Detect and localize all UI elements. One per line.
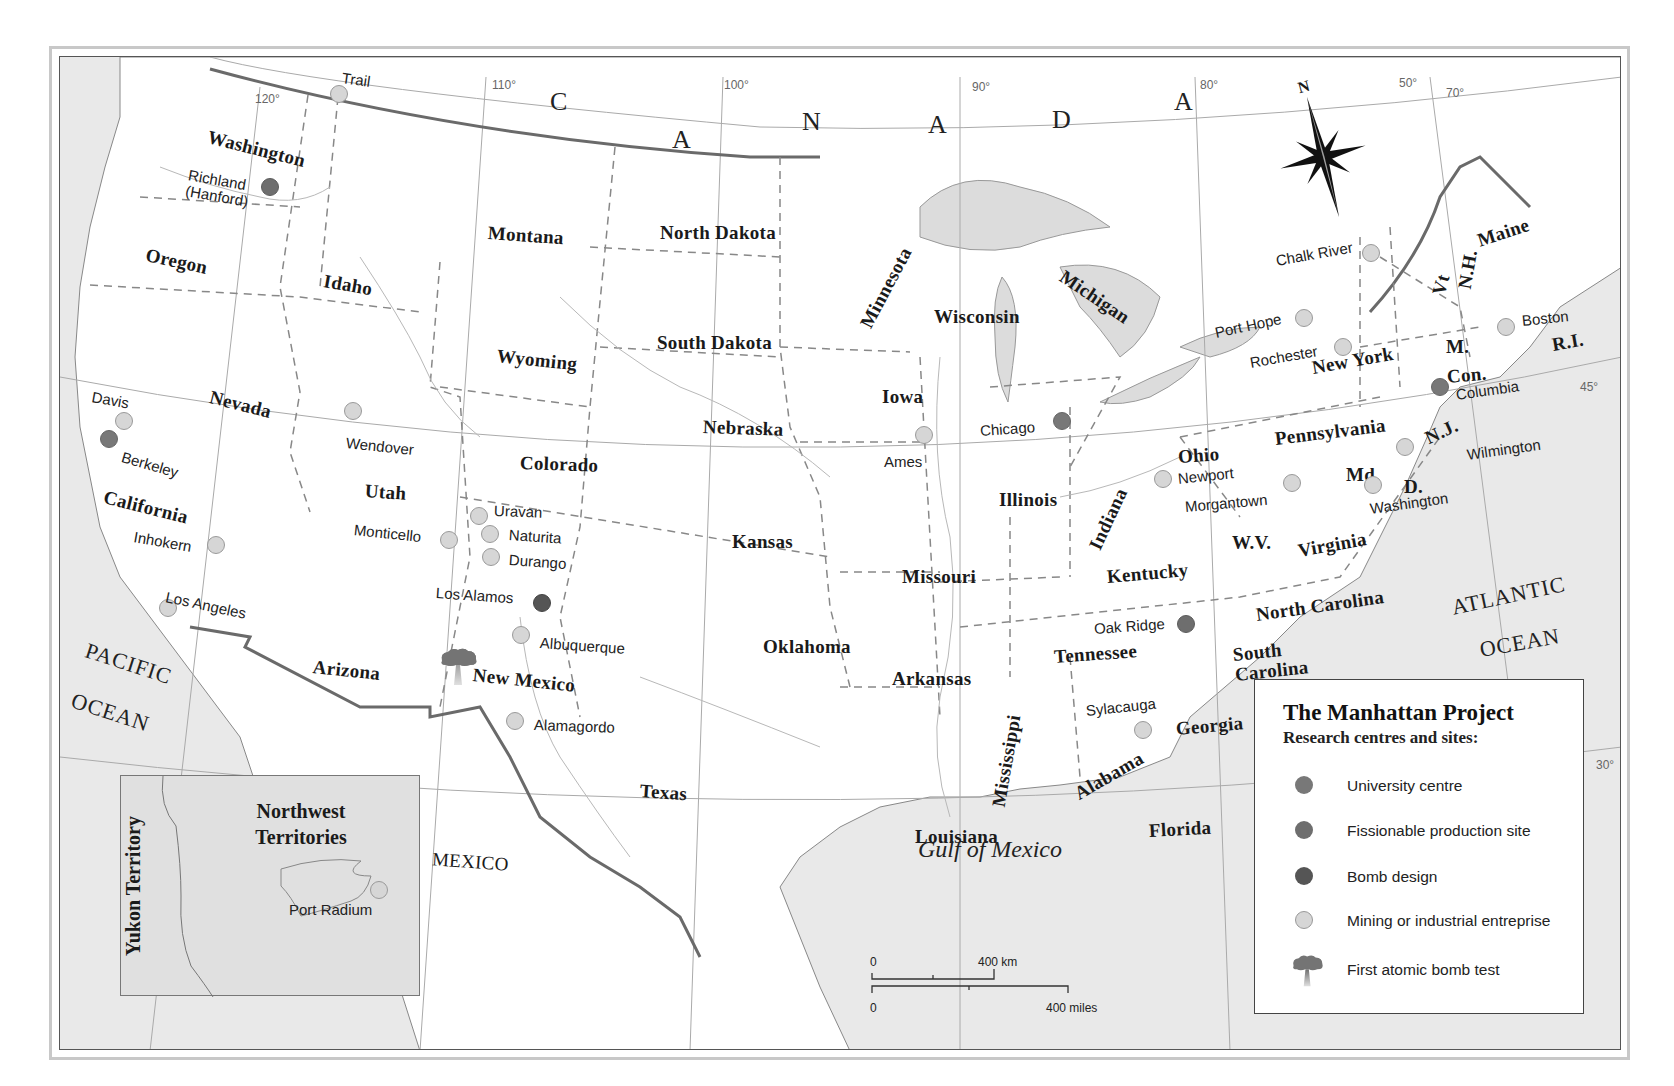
site-marker-uravan[interactable] bbox=[470, 507, 488, 525]
canada-letter: A bbox=[928, 112, 947, 138]
site-marker-chalk-river[interactable] bbox=[1362, 244, 1380, 262]
state-label-texas: Texas bbox=[639, 781, 687, 803]
state-label-arkansas: Arkansas bbox=[892, 669, 971, 688]
site-marker-ames[interactable] bbox=[915, 426, 933, 444]
scale-km-zero: 0 bbox=[870, 955, 877, 969]
scale-mi-zero: 0 bbox=[870, 1001, 877, 1015]
state-label-south-carolina: South Carolina bbox=[1232, 637, 1310, 684]
site-marker-rochester[interactable] bbox=[1334, 338, 1352, 356]
site-marker-columbia[interactable] bbox=[1431, 378, 1449, 396]
site-marker-port-hope[interactable] bbox=[1295, 309, 1313, 327]
state-label-illinois: Illinois bbox=[999, 490, 1057, 509]
legend-label: Mining or industrial entreprise bbox=[1347, 912, 1550, 930]
legend-item-university: University centre bbox=[1255, 770, 1583, 800]
legend-item-bomb-test: First atomic bomb test bbox=[1255, 954, 1583, 984]
legend-title: The Manhattan Project bbox=[1283, 700, 1583, 726]
site-marker-durango[interactable] bbox=[482, 548, 500, 566]
inset-northwest-territories: Northwest Territories Yukon Territory Po… bbox=[120, 775, 420, 996]
atomic-bomb-test-icon[interactable] bbox=[438, 647, 480, 687]
site-marker-washington[interactable] bbox=[1364, 476, 1382, 494]
site-marker-oak-ridge[interactable] bbox=[1177, 615, 1195, 633]
university-centre-icon bbox=[1295, 776, 1313, 794]
site-marker-monticello[interactable] bbox=[440, 531, 458, 549]
state-label-oklahoma: Oklahoma bbox=[763, 637, 851, 656]
state-label-south-dakota: South Dakota bbox=[657, 333, 772, 352]
state-label-florida: Florida bbox=[1149, 818, 1212, 840]
site-marker-wilmington[interactable] bbox=[1396, 438, 1414, 456]
state-label-colorado: Colorado bbox=[520, 453, 599, 475]
state-label-w-v-: W.V. bbox=[1232, 533, 1271, 552]
mushroom-cloud-icon bbox=[1285, 954, 1331, 988]
site-marker-albuquerque[interactable] bbox=[512, 626, 530, 644]
state-label-ohio: Ohio bbox=[1177, 444, 1220, 466]
degree-label: 120° bbox=[255, 93, 280, 105]
state-label-utah: Utah bbox=[364, 481, 407, 503]
legend-label: Bomb design bbox=[1347, 868, 1437, 886]
gulf-of-mexico-label: Gulf of Mexico bbox=[918, 837, 1062, 861]
legend-item-fission: Fissionable production site bbox=[1255, 815, 1583, 845]
site-label-chicago: Chicago bbox=[979, 419, 1035, 438]
site-marker-berkeley[interactable] bbox=[100, 430, 118, 448]
site-marker-sylacauga[interactable] bbox=[1134, 721, 1152, 739]
site-marker-boston[interactable] bbox=[1497, 318, 1515, 336]
canada-letter: A bbox=[672, 127, 691, 153]
scale-bar: 0 400 km 0 400 miles bbox=[870, 955, 1110, 1035]
legend-subtitle: Research centres and sites: bbox=[1283, 728, 1583, 748]
site-marker-port-radium[interactable] bbox=[370, 881, 388, 899]
site-marker-naturita[interactable] bbox=[481, 525, 499, 543]
site-label-ames: Ames bbox=[884, 454, 922, 469]
scale-mi-label: 400 miles bbox=[1046, 1001, 1097, 1015]
site-marker-los-alamos[interactable] bbox=[533, 594, 551, 612]
site-marker-chicago[interactable] bbox=[1053, 412, 1071, 430]
compass-star-icon bbox=[1270, 79, 1380, 219]
canada-letter: C bbox=[550, 89, 567, 115]
site-marker-alamagordo[interactable] bbox=[506, 712, 524, 730]
state-label-vt: Vt bbox=[1429, 272, 1453, 297]
legend: The Manhattan Project Research centres a… bbox=[1254, 679, 1584, 1014]
fissionable-site-icon bbox=[1295, 821, 1313, 839]
state-label-kansas: Kansas bbox=[732, 532, 793, 551]
legend-item-bomb-design: Bomb design bbox=[1255, 861, 1583, 891]
site-label-port-radium: Port Radium bbox=[289, 902, 372, 917]
site-label-uravan: Uravan bbox=[494, 503, 543, 520]
state-label-missouri: Missouri bbox=[902, 567, 976, 586]
bomb-design-icon bbox=[1295, 867, 1313, 885]
site-marker-inhokern[interactable] bbox=[207, 536, 225, 554]
map-canvas: CANADA 120°110°100°90°80°70°50°45°30° Wa… bbox=[59, 56, 1621, 1050]
state-label-m-: M. bbox=[1446, 337, 1469, 356]
site-label-alamagordo: Alamagordo bbox=[534, 717, 615, 735]
legend-label: University centre bbox=[1347, 777, 1462, 795]
inset-title-line1: Northwest bbox=[221, 798, 381, 824]
site-marker-morgantown[interactable] bbox=[1283, 474, 1301, 492]
degree-label: 45° bbox=[1580, 381, 1598, 393]
state-label-wisconsin: Wisconsin bbox=[934, 307, 1020, 326]
degree-label: 90° bbox=[972, 81, 990, 93]
state-label-montana: Montana bbox=[487, 223, 564, 247]
legend-item-mining: Mining or industrial entreprise bbox=[1255, 905, 1583, 935]
site-label-trail: Trail bbox=[341, 70, 371, 89]
compass-rose: N bbox=[1270, 79, 1380, 219]
site-marker-davis[interactable] bbox=[115, 412, 133, 430]
site-marker-richland-hanford[interactable] bbox=[261, 178, 279, 196]
state-label-r-i-: R.I. bbox=[1550, 330, 1585, 354]
canada-letter: N bbox=[802, 109, 821, 135]
degree-label: 110° bbox=[492, 79, 516, 91]
state-label-iowa: Iowa bbox=[882, 387, 923, 406]
inset-yukon-label: Yukon Territory bbox=[123, 816, 143, 956]
country-label-mexico: MEXICO bbox=[431, 849, 509, 873]
site-marker-trail[interactable] bbox=[330, 85, 348, 103]
inset-title-line2: Territories bbox=[221, 824, 381, 850]
scale-km-label: 400 km bbox=[978, 955, 1017, 969]
site-marker-newport[interactable] bbox=[1154, 470, 1172, 488]
canada-letter: D bbox=[1052, 107, 1071, 133]
site-label-naturita: Naturita bbox=[508, 527, 561, 546]
degree-label: 70° bbox=[1446, 87, 1464, 99]
degree-label: 30° bbox=[1596, 759, 1614, 771]
degree-label: 80° bbox=[1200, 79, 1218, 91]
canada-letter: A bbox=[1174, 89, 1193, 115]
site-label-durango: Durango bbox=[508, 552, 566, 571]
legend-label: First atomic bomb test bbox=[1347, 961, 1499, 979]
inset-title: Northwest Territories bbox=[221, 798, 381, 850]
site-marker-wendover[interactable] bbox=[344, 402, 362, 420]
state-label-north-dakota: North Dakota bbox=[660, 223, 776, 242]
